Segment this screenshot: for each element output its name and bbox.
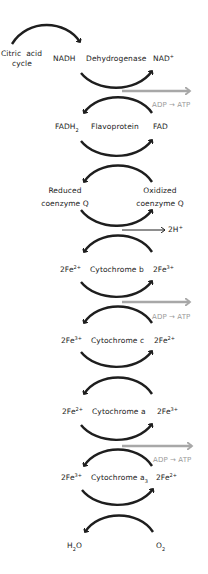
nad-charge: + <box>170 53 174 59</box>
arrow-citric-to-nadh <box>12 25 80 44</box>
proton-text: 2H <box>168 225 179 234</box>
flavoprotein-text: Flavoprotein <box>91 122 139 131</box>
fe-text: 2Fe <box>60 265 74 274</box>
cyt-b-right-iron: 2Fe3+ <box>153 265 174 274</box>
adp-atp-text-2: ADP → ATP <box>152 313 190 321</box>
oxidized-text: Oxidized <box>134 186 186 195</box>
fe-charge: 3+ <box>167 264 175 270</box>
coenzyme-q-text-right: coenzyme Q <box>134 199 186 208</box>
cytochrome-a-text: Cytochrome a <box>92 407 146 416</box>
cyt-a-left-iron: 2Fe2+ <box>62 407 83 416</box>
citric-acid-cycle-label: Citric acid <box>1 49 42 58</box>
cytochrome-a3-label: Cytochrome a3 <box>91 473 148 482</box>
proton-label: 2H+ <box>168 225 183 234</box>
fe-text: 2Fe <box>153 265 167 274</box>
cyt-b-left-iron: 2Fe2+ <box>60 265 81 274</box>
reduced-text: Reduced <box>40 186 90 195</box>
cyt-a3-right-iron: 2Fe2+ <box>156 473 177 482</box>
water-label: H2O <box>67 541 82 550</box>
adp-atp-text-1: ADP → ATP <box>152 101 190 109</box>
fe-charge: 2+ <box>168 335 176 341</box>
atp-label-3: ADP → ATP <box>153 456 191 465</box>
nad-text: NAD <box>153 54 170 63</box>
fadh-subscript: 2 <box>76 127 79 133</box>
coenzyme-q-text-left: coenzyme Q <box>40 199 90 208</box>
dehydrogenase-text: Dehydrogenase <box>86 54 146 63</box>
fe-text: 2Fe <box>154 336 168 345</box>
fe-charge: 3+ <box>75 335 83 341</box>
cytochrome-c-text: Cytochrome c <box>91 336 144 345</box>
arrows-layer <box>0 0 208 574</box>
cyt-c-right-iron: 2Fe2+ <box>154 336 175 345</box>
o2-subscript: 2 <box>162 546 165 552</box>
cytochrome-b-text: Cytochrome b <box>90 265 144 274</box>
fe-text: 2Fe <box>61 473 75 482</box>
fe-text: 2Fe <box>62 407 76 416</box>
fe-charge: 3+ <box>171 406 179 412</box>
a3-subscript: 3 <box>145 478 148 484</box>
nadh-text: NADH <box>53 54 76 63</box>
atp-label-1: ADP → ATP <box>152 101 190 110</box>
reduced-coq-label: Reduced coenzyme Q <box>40 186 90 208</box>
flavoprotein-label: Flavoprotein <box>91 122 139 131</box>
o-text: O <box>76 541 82 550</box>
fe-charge: 2+ <box>76 406 84 412</box>
proton-charge: + <box>179 224 183 230</box>
fe-charge: 2+ <box>74 264 82 270</box>
acid-text: acid <box>26 49 42 58</box>
cycle-label: cycle <box>12 59 32 68</box>
oxygen-label: O2 <box>156 541 165 550</box>
arrow-pair-2 <box>81 140 152 182</box>
cycle-text: cycle <box>12 59 32 68</box>
cytochrome-a-label: Cytochrome a <box>92 407 146 416</box>
dehydrogenase-label: Dehydrogenase <box>86 54 146 63</box>
fadh-text: FADH <box>55 122 76 131</box>
nadh-label: NADH <box>53 54 76 63</box>
citric-text: Citric <box>1 49 21 58</box>
atp-label-2: ADP → ATP <box>152 313 190 322</box>
cytochrome-b-label: Cytochrome b <box>90 265 144 274</box>
oxidized-coq-label: Oxidized coenzyme Q <box>134 186 186 208</box>
arrow-pair-5 <box>81 351 152 394</box>
cytochrome-a3-text: Cytochrome a <box>91 473 145 482</box>
adp-atp-text-3: ADP → ATP <box>153 456 191 464</box>
cyt-c-left-iron: 2Fe3+ <box>61 336 82 345</box>
cytochrome-c-label: Cytochrome c <box>91 336 144 345</box>
fe-text: 2Fe <box>156 473 170 482</box>
nad-plus-label: NAD+ <box>153 54 174 63</box>
fadh2-label: FADH2 <box>55 122 79 131</box>
arrow-pair-3 <box>81 210 165 252</box>
fe-charge: 3+ <box>75 472 83 478</box>
fe-text: 2Fe <box>157 407 171 416</box>
cyt-a-right-iron: 2Fe3+ <box>157 407 178 416</box>
fe-text: 2Fe <box>61 336 75 345</box>
cyt-a3-left-iron: 2Fe3+ <box>61 473 82 482</box>
arrow-pair-7 <box>82 489 153 532</box>
fad-label: FAD <box>153 122 168 131</box>
fe-charge: 2+ <box>170 472 178 478</box>
fad-text: FAD <box>153 122 168 131</box>
